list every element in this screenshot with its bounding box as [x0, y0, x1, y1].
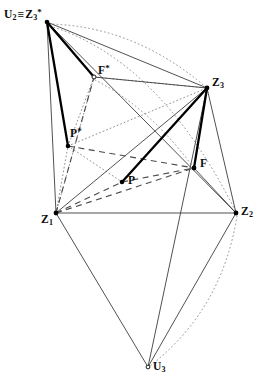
label-u2-z3star: U2≡Z3*	[4, 8, 42, 22]
edge-f-z2	[194, 168, 236, 213]
arc-fstar-f	[95, 80, 193, 167]
point-u3	[146, 365, 150, 369]
label-z3-letter: Z	[212, 76, 220, 88]
dotted-z1-pstar	[56, 146, 68, 213]
edge-z1-u3	[56, 213, 148, 367]
label-z1-letter: Z	[41, 213, 49, 225]
label-z2-subscript: 2	[249, 210, 253, 219]
point-fstar	[92, 75, 96, 79]
label-fstar-asterisk: *	[105, 63, 110, 73]
dashed-z1-f	[56, 168, 194, 213]
geometry-canvas	[0, 0, 268, 390]
point-z3	[205, 86, 210, 91]
label-p: P	[128, 175, 135, 187]
label-u3-letter: U	[153, 360, 162, 372]
dashed-group	[56, 77, 194, 213]
label-z1: Z1	[41, 214, 53, 227]
point-pstar	[66, 144, 71, 149]
label-pstar: P*	[70, 127, 82, 139]
label-u2-subscript: 2	[13, 13, 17, 22]
edge-z2-u3	[148, 213, 236, 367]
point-p	[120, 180, 125, 185]
label-p-letter: P	[128, 174, 135, 186]
label-z1-subscript: 1	[49, 218, 53, 227]
edge-u2-z3	[47, 22, 207, 88]
point-u2	[45, 20, 50, 25]
dashed-z1-p	[56, 182, 122, 213]
label-z2-letter: Z	[241, 205, 249, 217]
arc-z2-u3	[150, 216, 237, 366]
label-z3star-letter: Z	[25, 8, 33, 20]
point-f	[192, 166, 197, 171]
label-f: F	[200, 158, 207, 170]
label-z3star-asterisk: *	[37, 7, 42, 17]
dotted-line-group	[56, 77, 207, 213]
label-z3-subscript: 3	[220, 81, 224, 90]
label-z3: Z3	[212, 77, 224, 90]
thin-edge-group	[47, 22, 236, 367]
vertex-group	[45, 20, 239, 369]
geometry-figure: U2≡Z3* F* P* Z3 Z1 Z2 P F U3	[0, 0, 268, 390]
label-u2-letter: U	[4, 8, 13, 20]
label-f-letter: F	[200, 157, 207, 169]
dotted-pstar-p	[68, 146, 122, 182]
label-u3-subscript: 3	[162, 365, 166, 374]
label-fstar: F*	[98, 64, 110, 76]
label-u3: U3	[153, 361, 166, 374]
dashed-pstar-f	[68, 146, 194, 168]
label-z2: Z2	[241, 206, 253, 219]
point-z2	[234, 211, 239, 216]
point-z1	[54, 211, 59, 216]
edge-u2-z2	[47, 22, 236, 213]
edge-z3-z2	[207, 88, 236, 213]
dashed-z1-fstar	[56, 77, 94, 213]
label-pstar-asterisk: *	[77, 126, 82, 136]
equivalence-symbol: ≡	[17, 8, 26, 20]
